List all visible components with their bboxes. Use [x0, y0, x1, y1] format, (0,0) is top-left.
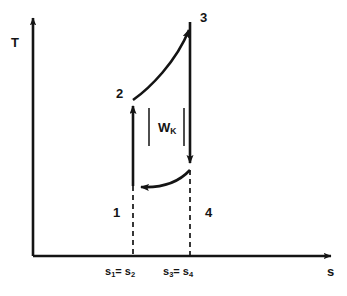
y-axis-label: T — [11, 36, 19, 49]
work-symbol: W — [158, 120, 170, 135]
ts-diagram-figure: T s 1 2 3 4 WK s1= s2 s3= s4 — [0, 0, 347, 296]
tick-s2-subscript: 2 — [131, 270, 135, 279]
tick-s1-subscript: 1 — [111, 270, 115, 279]
state-label-3: 3 — [200, 11, 207, 24]
tick-s1s2-equals: = — [115, 265, 124, 277]
work-subscript: K — [170, 126, 176, 136]
tick-s2-symbol: s — [125, 265, 131, 277]
state-label-4: 4 — [205, 206, 212, 219]
tick-s3s4-equals: = — [173, 265, 182, 277]
x-axis-label: s — [327, 265, 334, 278]
process-4-to-1 — [141, 170, 190, 187]
tick-label-s3-s4: s3= s4 — [163, 266, 193, 277]
state-label-2: 2 — [116, 87, 123, 100]
tick-s3-subscript: 3 — [169, 270, 173, 279]
diagram-canvas — [0, 0, 347, 296]
process-2-to-3 — [133, 30, 189, 100]
tick-s4-symbol: s — [183, 265, 189, 277]
tick-label-s1-s2: s1= s2 — [105, 266, 135, 277]
state-label-1: 1 — [113, 206, 120, 219]
tick-s4-subscript: 4 — [189, 270, 193, 279]
work-annotation: WK — [158, 121, 176, 134]
